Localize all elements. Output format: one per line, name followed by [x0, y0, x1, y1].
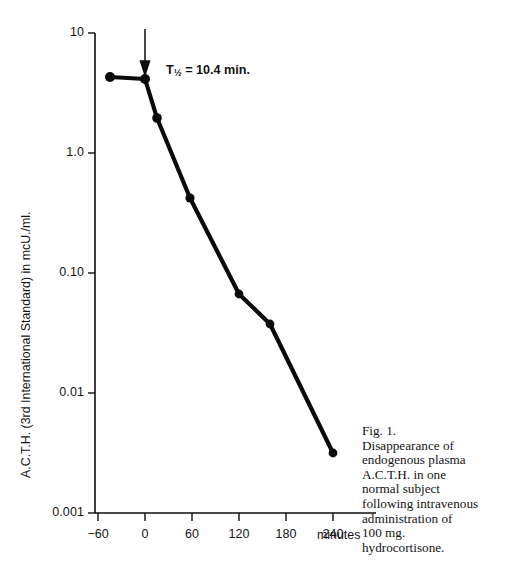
- caption-line: following intravenous: [362, 497, 514, 512]
- x-axis-ticks: [98, 513, 333, 521]
- caption-line: A.C.T.H. in one: [362, 468, 514, 483]
- half-life-annotation: T½ = 10.4 min.: [166, 63, 250, 78]
- caption-line: administration of: [362, 512, 514, 527]
- figure-caption: Fig. 1. Disappearance of endogenous plas…: [362, 424, 514, 555]
- caption-line: endogenous plasma: [362, 453, 514, 468]
- half-life-prefix: T: [166, 63, 174, 77]
- caption-line: normal subject: [362, 482, 514, 497]
- data-point: [185, 193, 194, 202]
- data-point: [235, 290, 244, 299]
- y-axis-ticks: [88, 33, 95, 513]
- y-axis-title: A.C.T.H. (3rd International Standard) in…: [19, 218, 33, 478]
- data-point: [140, 74, 150, 84]
- half-life-subscript: ½: [174, 67, 182, 78]
- data-point: [105, 72, 115, 82]
- caption-line: hydrocortisone.: [362, 541, 514, 556]
- injection-arrow-icon: [141, 29, 150, 75]
- caption-line: Disappearance of: [362, 439, 514, 454]
- y-tick-label-10: 10: [22, 25, 84, 39]
- data-point: [152, 113, 162, 123]
- caption-line: 100 mg.: [362, 526, 514, 541]
- data-series-line: [110, 77, 333, 453]
- figure-panel: 10 1.0 0.10 0.01 0.001 −60 0 60 120 180 …: [0, 0, 519, 584]
- half-life-suffix: = 10.4 min.: [182, 63, 250, 77]
- data-point: [329, 449, 338, 458]
- data-point-markers: [105, 72, 337, 457]
- y-tick-label-0-001: 0.001: [22, 505, 84, 519]
- data-point: [266, 320, 275, 329]
- caption-line: Fig. 1.: [362, 424, 514, 439]
- x-axis-title: minutes: [317, 528, 360, 542]
- y-tick-label-1: 1.0: [22, 145, 84, 159]
